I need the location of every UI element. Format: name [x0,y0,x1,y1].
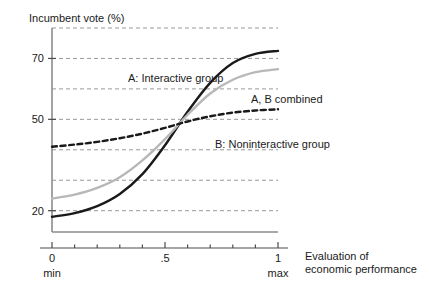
x-axis-title: Evaluation ofeconomic performance [305,250,417,276]
x-endcap-label-min: min [32,267,72,279]
series-label-2: B: Noninteractive group [215,138,330,150]
series-label-1: A, B combined [251,93,323,105]
gridlines [52,28,278,211]
y-axis-title: Incumbent vote (%) [29,12,124,25]
x-tick-label-0: 0 [37,252,67,264]
x-tick-label-1: .5 [150,252,180,264]
x-axis-title-line2: economic performance [305,263,417,275]
x-axis-ticks [52,242,278,248]
x-tick-label-2: 1 [263,252,293,264]
y-tick-label-2: 20 [22,205,44,217]
x-endcap-label-max: max [258,267,298,279]
series-label-0: A: Interactive group [128,72,223,84]
y-tick-label-0: 70 [22,52,44,64]
y-tick-label-1: 50 [22,113,44,125]
x-axis-title-line1: Evaluation of [305,250,369,262]
chart-figure: Incumbent vote (%) Evaluation ofeconomic… [0,0,429,292]
